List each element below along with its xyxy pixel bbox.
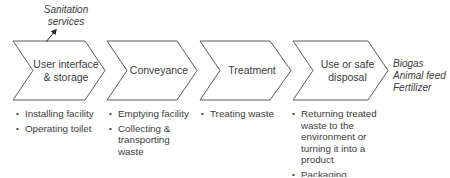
stage-label-line1: Use or safe — [310, 58, 385, 71]
bullet-item: Collecting & transporting waste — [109, 123, 195, 158]
output-biogas: Biogas — [393, 58, 450, 70]
bullet-item: Packaging, distributing/ selling product — [292, 169, 396, 178]
bullet-item: Installing facility — [16, 108, 106, 120]
arrow-to-sanitation-services — [46, 31, 55, 42]
stage-label-line2: disposal — [310, 71, 385, 84]
bullet-item: Operating toilet — [16, 123, 106, 135]
stage-label-use-disposal: Use or safe disposal — [310, 58, 385, 84]
stage-label-line1: Treatment — [217, 64, 287, 77]
stage-label-line1: User interface — [30, 58, 102, 71]
stage-label-user-interface: User interface & storage — [30, 58, 102, 84]
stage-label-conveyance: Conveyance — [124, 64, 194, 77]
bullets-conveyance: Emptying facility Collecting & transport… — [109, 108, 195, 160]
bullet-item: Emptying facility — [109, 108, 195, 120]
stage-label-treatment: Treatment — [217, 64, 287, 77]
bullet-item: Returning treated waste to the environme… — [292, 108, 396, 166]
output-animal-feed: Animal feed — [393, 70, 450, 82]
sanitation-services-label: Sanitation services — [36, 4, 96, 28]
bullet-item: Treating waste — [201, 108, 291, 120]
outputs-list: Biogas Animal feed Fertilizer — [393, 58, 450, 94]
sanitation-line1: Sanitation — [36, 4, 96, 16]
bullets-use-disposal: Returning treated waste to the environme… — [292, 108, 396, 177]
stage-label-line1: Conveyance — [124, 64, 194, 77]
bullets-user-interface: Installing facility Operating toilet — [16, 108, 106, 137]
sanitation-line2: services — [36, 16, 96, 28]
bullets-treatment: Treating waste — [201, 108, 291, 123]
stage-label-line2: & storage — [30, 71, 102, 84]
output-fertilizer: Fertilizer — [393, 82, 450, 94]
